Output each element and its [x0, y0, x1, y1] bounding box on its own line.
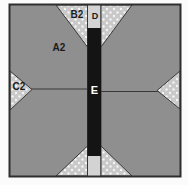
- label-side-triangle: C2: [13, 81, 26, 92]
- diagram-canvas: A2 B2 D C2 E: [0, 0, 188, 185]
- label-center-bar: E: [91, 84, 98, 96]
- quilt-block-diagram: A2 B2 D C2 E: [0, 0, 188, 185]
- label-corner-triangle: B2: [71, 9, 84, 20]
- label-top-strip: D: [92, 11, 99, 21]
- label-quadrant: A2: [53, 42, 66, 53]
